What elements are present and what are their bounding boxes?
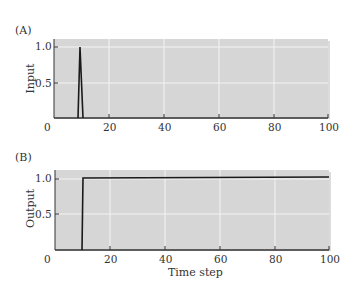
chart-svg xyxy=(0,0,351,287)
panel-b-plot xyxy=(55,170,331,251)
panel-a-plot xyxy=(54,39,330,119)
